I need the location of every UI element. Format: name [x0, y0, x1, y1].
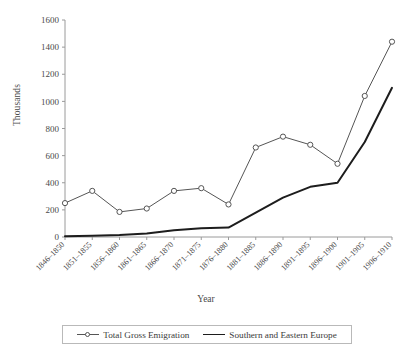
- data-point-marker: [280, 134, 285, 139]
- data-point-marker: [308, 142, 313, 147]
- legend-label: Total Gross Emigration: [103, 330, 189, 340]
- emigration-line-chart: Thousands 02004006008001000120014001600 …: [0, 0, 412, 352]
- data-point-marker: [335, 161, 340, 166]
- y-tick-label: 1600: [41, 15, 60, 25]
- data-series: [62, 39, 394, 236]
- legend-label: Southern and Eastern Europe: [229, 330, 336, 340]
- data-point-marker: [226, 202, 231, 207]
- legend-thick-line-icon: [203, 330, 225, 339]
- x-tick-label: 1906–1910: [361, 240, 393, 272]
- data-point-marker: [389, 39, 394, 44]
- data-point-marker: [362, 93, 367, 98]
- series-line: [65, 42, 392, 212]
- y-tick-label: 600: [46, 151, 60, 161]
- x-axis-tick-labels: 1846–18501851–18551856–18601861–18651866…: [34, 240, 393, 272]
- legend-item-southern-and-eastern-europe[interactable]: Southern and Eastern Europe: [203, 330, 336, 340]
- y-tick-label: 1400: [41, 42, 60, 52]
- y-tick-label: 1000: [41, 97, 60, 107]
- data-point-marker: [253, 145, 258, 150]
- legend-item-total-gross-emigration[interactable]: Total Gross Emigration: [77, 330, 189, 340]
- x-axis-title: Year: [0, 294, 412, 304]
- data-point-marker: [117, 209, 122, 214]
- legend-marker-line-icon: [77, 330, 99, 339]
- data-point-marker: [90, 188, 95, 193]
- y-tick-label: 400: [46, 178, 60, 188]
- chart-legend: Total Gross Emigration Southern and East…: [62, 325, 352, 344]
- y-tick-label: 800: [46, 124, 60, 134]
- y-axis-ticks: 02004006008001000120014001600: [41, 15, 65, 242]
- series-line: [65, 88, 392, 237]
- data-point-marker: [171, 188, 176, 193]
- data-point-marker: [144, 206, 149, 211]
- y-tick-label: 200: [46, 205, 60, 215]
- data-point-marker: [199, 186, 204, 191]
- data-point-marker: [62, 200, 67, 205]
- y-tick-label: 1200: [41, 69, 60, 79]
